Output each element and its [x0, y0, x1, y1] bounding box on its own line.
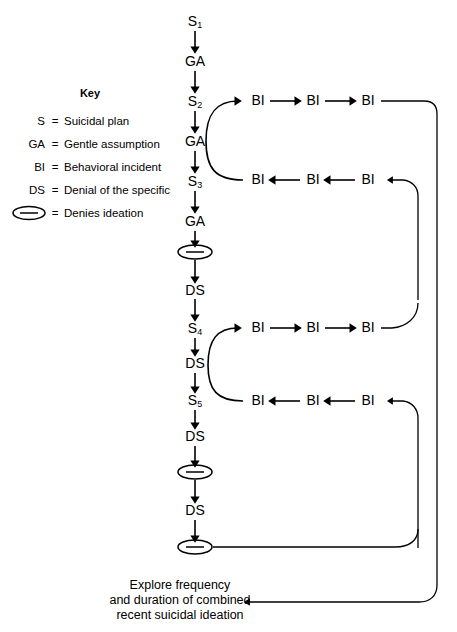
node-s1: S1: [188, 13, 202, 31]
key-entry-denial-of-the-specific: DS = Denial of the specific: [29, 184, 170, 196]
key-equals: =: [52, 207, 59, 219]
outcome-line-3: recent suicidal ideation: [116, 608, 243, 622]
node-bi: BI: [306, 319, 319, 335]
key-entry-suicidal-plan: S = Suicidal plan: [37, 115, 129, 127]
node-bi: BI: [306, 392, 319, 408]
key-abbr: BI: [34, 161, 45, 173]
node-ga3: GA: [185, 213, 206, 229]
node-s3: S3: [188, 173, 202, 191]
node-bi: BI: [251, 92, 264, 108]
node-bi: BI: [251, 171, 264, 187]
loop2-right-up-inner: [381, 303, 418, 328]
key-description: Suicidal plan: [64, 115, 129, 127]
key-description: Denies ideation: [64, 207, 143, 219]
node-bi: BI: [361, 92, 374, 108]
node-s2: S2: [188, 93, 202, 111]
key-equals: =: [52, 138, 59, 150]
node-s5: S5: [188, 392, 202, 410]
denies-ideation-ellipse-icon: [13, 207, 45, 220]
outcome-line-1: Explore frequency: [130, 578, 232, 592]
loop1-right-down-outer: [381, 101, 437, 585]
key-abbr: S: [37, 115, 45, 127]
key-description: Gentle assumption: [64, 138, 160, 150]
node-bi: BI: [306, 171, 319, 187]
key-equals: =: [52, 161, 59, 173]
key-equals: =: [52, 184, 59, 196]
node-denies-ideation-1: [178, 245, 212, 259]
key-entry-denies-ideation: = Denies ideation: [13, 207, 143, 220]
loop2-bottom-inner-feed: [390, 401, 418, 548]
node-bi: BI: [306, 92, 319, 108]
key-description: Denial of the specific: [64, 184, 170, 196]
main-column-nodes: S1 GA S2 GA S3 GA DS S4 DS S5 DS DS: [178, 13, 212, 554]
flowchart-page: Key S = Suicidal plan GA = Gentle assump…: [0, 0, 457, 632]
behavioral-incident-loop-1: BI BI BI BI BI BI: [206, 92, 437, 585]
key-description: Behavioral incident: [64, 161, 162, 173]
node-bi: BI: [361, 319, 374, 335]
outer-line-to-outcome: [247, 585, 437, 602]
node-bi: BI: [251, 319, 264, 335]
node-bi: BI: [251, 392, 264, 408]
node-s4: S4: [188, 320, 202, 338]
node-ds3: DS: [185, 428, 204, 444]
outcome-line-2: and duration of combined: [109, 593, 250, 607]
final-ellipse-to-inner-line: [213, 529, 418, 547]
node-ga1: GA: [185, 53, 206, 69]
node-denies-ideation-3: [178, 540, 212, 554]
behavioral-incident-loop-2: BI BI BI BI BI BI: [208, 303, 418, 548]
node-bi: BI: [361, 392, 374, 408]
node-ds4: DS: [185, 502, 204, 518]
key-entry-behavioral-incident: BI = Behavioral incident: [34, 161, 162, 173]
node-ds1: DS: [185, 282, 204, 298]
key-entry-gentle-assumption: GA = Gentle assumption: [28, 138, 160, 150]
key-heading: Key: [80, 87, 101, 99]
key-abbr: GA: [28, 138, 45, 150]
loop2-left-curve: [208, 328, 243, 401]
outcome-text-block: Explore frequency and duration of combin…: [109, 578, 250, 622]
node-ds2: DS: [185, 355, 204, 371]
loop1-bottom-inner-feed: [390, 180, 418, 300]
key-equals: =: [52, 115, 59, 127]
node-denies-ideation-2: [178, 465, 212, 479]
node-ga2: GA: [185, 133, 206, 149]
suicide-assessment-flowchart: Key S = Suicidal plan GA = Gentle assump…: [0, 0, 457, 632]
loop1-left-curve: [206, 101, 243, 180]
node-bi: BI: [361, 171, 374, 187]
key-block: Key S = Suicidal plan GA = Gentle assump…: [13, 87, 170, 220]
key-abbr: DS: [29, 184, 45, 196]
